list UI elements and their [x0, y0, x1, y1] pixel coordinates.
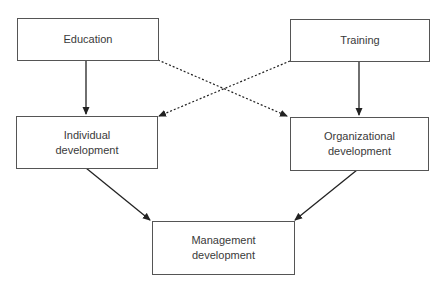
node-label-line1: Management: [191, 233, 255, 248]
node-label-line1: Individual: [56, 128, 119, 143]
edge-individual-management: [86, 168, 150, 220]
node-label-line2: development: [56, 143, 119, 158]
edge-organizational-management: [295, 170, 357, 220]
node-individual-development: Individual development: [16, 116, 158, 169]
node-label-line1: Organizational: [324, 129, 395, 144]
node-label: Training: [340, 33, 379, 48]
node-organizational-development: Organizational development: [290, 117, 429, 171]
edge-education-organizational: [158, 60, 287, 116]
node-label-line2: development: [191, 248, 255, 263]
node-management-development: Management development: [152, 221, 295, 275]
node-education: Education: [17, 18, 159, 61]
node-training: Training: [290, 19, 430, 62]
node-label-line2: development: [324, 144, 395, 159]
node-label: Education: [64, 32, 113, 47]
